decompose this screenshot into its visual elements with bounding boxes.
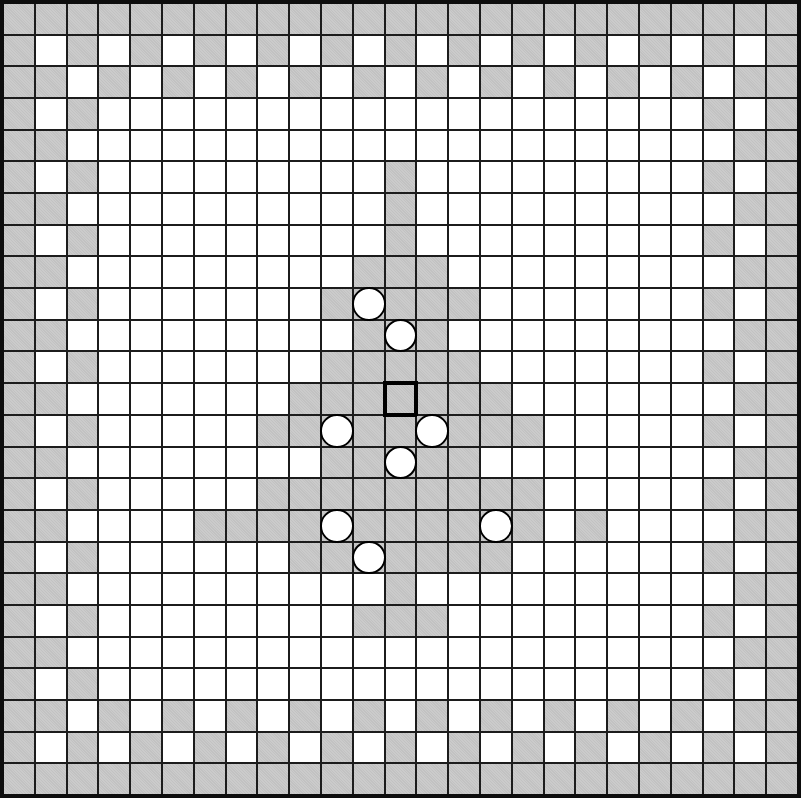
board-cell[interactable]	[513, 257, 543, 287]
board-cell[interactable]	[354, 194, 384, 224]
board-cell[interactable]	[672, 194, 702, 224]
board-cell[interactable]	[322, 36, 352, 66]
board-cell[interactable]	[36, 543, 66, 573]
board-cell[interactable]	[99, 733, 129, 763]
board-cell[interactable]	[417, 4, 447, 34]
board-cell[interactable]	[672, 4, 702, 34]
board-cell[interactable]	[354, 36, 384, 66]
board-cell[interactable]	[386, 36, 416, 66]
board-cell[interactable]	[386, 479, 416, 509]
board-cell[interactable]	[131, 511, 161, 541]
board-cell[interactable]	[545, 733, 575, 763]
board-cell[interactable]	[4, 257, 34, 287]
board-cell[interactable]	[767, 36, 797, 66]
board-cell[interactable]	[672, 384, 702, 414]
board-cell[interactable]	[576, 289, 606, 319]
board-cell[interactable]	[163, 36, 193, 66]
board-cell[interactable]	[99, 479, 129, 509]
board-cell[interactable]	[545, 574, 575, 604]
board-cell[interactable]	[608, 352, 638, 382]
board-cell[interactable]	[704, 257, 734, 287]
board-cell[interactable]	[767, 131, 797, 161]
board-cell[interactable]	[767, 416, 797, 446]
board-cell[interactable]	[576, 669, 606, 699]
board-cell[interactable]	[735, 226, 765, 256]
board-cell[interactable]	[131, 669, 161, 699]
board-cell[interactable]	[545, 764, 575, 794]
board-cell[interactable]	[386, 543, 416, 573]
board-cell[interactable]	[227, 162, 257, 192]
board-cell[interactable]	[68, 543, 98, 573]
board-cell[interactable]	[322, 162, 352, 192]
board-cell[interactable]	[513, 733, 543, 763]
board-cell[interactable]	[227, 479, 257, 509]
board-cell[interactable]	[704, 479, 734, 509]
board-cell[interactable]	[354, 289, 384, 319]
board-cell[interactable]	[640, 511, 670, 541]
board-cell[interactable]	[322, 194, 352, 224]
board-cell[interactable]	[417, 733, 447, 763]
board-cell[interactable]	[704, 321, 734, 351]
board-cell[interactable]	[640, 543, 670, 573]
board-cell[interactable]	[481, 289, 511, 319]
board-cell[interactable]	[417, 669, 447, 699]
board-cell[interactable]	[131, 67, 161, 97]
board-cell[interactable]	[163, 131, 193, 161]
board-cell[interactable]	[36, 511, 66, 541]
board-cell[interactable]	[386, 162, 416, 192]
board-cell[interactable]	[481, 733, 511, 763]
board-cell[interactable]	[704, 99, 734, 129]
board-cell[interactable]	[322, 638, 352, 668]
board-cell[interactable]	[386, 67, 416, 97]
board-cell[interactable]	[513, 764, 543, 794]
board-cell[interactable]	[290, 511, 320, 541]
board-cell[interactable]	[576, 162, 606, 192]
board-cell[interactable]	[449, 162, 479, 192]
piece-circle[interactable]	[384, 319, 418, 353]
board-cell[interactable]	[68, 321, 98, 351]
board-cell[interactable]	[227, 701, 257, 731]
board-cell[interactable]	[4, 162, 34, 192]
board-cell[interactable]	[672, 131, 702, 161]
board-cell[interactable]	[513, 543, 543, 573]
board-cell[interactable]	[195, 543, 225, 573]
board-cell[interactable]	[4, 638, 34, 668]
board-cell[interactable]	[354, 352, 384, 382]
board-cell[interactable]	[36, 4, 66, 34]
board-cell[interactable]	[767, 352, 797, 382]
board-cell[interactable]	[608, 669, 638, 699]
board-cell[interactable]	[608, 543, 638, 573]
board-cell[interactable]	[68, 194, 98, 224]
board-cell[interactable]	[36, 574, 66, 604]
board-cell[interactable]	[258, 669, 288, 699]
board-cell[interactable]	[227, 416, 257, 446]
board-cell[interactable]	[322, 4, 352, 34]
board-cell[interactable]	[513, 511, 543, 541]
board-cell[interactable]	[576, 99, 606, 129]
board-cell[interactable]	[4, 574, 34, 604]
board-cell[interactable]	[354, 162, 384, 192]
board-cell[interactable]	[481, 511, 511, 541]
board-cell[interactable]	[386, 764, 416, 794]
board-cell[interactable]	[640, 384, 670, 414]
board-cell[interactable]	[36, 67, 66, 97]
board-cell[interactable]	[4, 352, 34, 382]
board-cell[interactable]	[36, 226, 66, 256]
board-cell[interactable]	[227, 99, 257, 129]
board-cell[interactable]	[68, 131, 98, 161]
board-cell[interactable]	[513, 67, 543, 97]
board-cell[interactable]	[4, 669, 34, 699]
board-cell[interactable]	[195, 669, 225, 699]
board-cell[interactable]	[735, 479, 765, 509]
board-cell[interactable]	[576, 701, 606, 731]
board-cell[interactable]	[4, 226, 34, 256]
board-cell[interactable]	[417, 701, 447, 731]
board-cell[interactable]	[258, 733, 288, 763]
piece-circle[interactable]	[320, 509, 354, 543]
board-cell[interactable]	[36, 669, 66, 699]
board-cell[interactable]	[576, 416, 606, 446]
board-cell[interactable]	[545, 131, 575, 161]
board-cell[interactable]	[36, 99, 66, 129]
board-cell[interactable]	[576, 321, 606, 351]
board-cell[interactable]	[36, 162, 66, 192]
